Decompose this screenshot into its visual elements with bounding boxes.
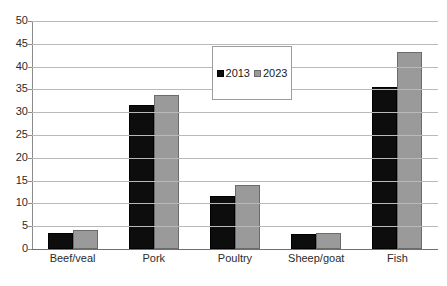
y-tick-mark [28,44,32,45]
legend-entry-2013: 2013 [217,68,250,79]
y-axis-tick-label: 40 [2,61,28,72]
y-tick-mark [28,226,32,227]
gray-square-swatch [254,70,261,77]
legend-row: 20132023 [213,68,291,79]
bar-chart: 50454035302520151050 Beef/vealPorkPoultr… [0,0,447,286]
y-axis-tick-label: 30 [2,106,28,117]
black-square-swatch [217,70,224,77]
gridline [32,203,438,204]
bar-sheep-goat-2013 [291,234,316,249]
gridline [32,158,438,159]
bar-beef-veal-2013 [48,233,73,249]
gridline [32,112,438,113]
y-axis-tick-label: 20 [2,152,28,163]
bar-poultry-2023 [235,185,260,249]
y-tick-mark [28,135,32,136]
y-axis-tick-label: 35 [2,83,28,94]
legend-label: 2023 [263,68,287,79]
y-tick-mark [28,21,32,22]
x-axis-tick-label: Sheep/goat [276,252,357,264]
x-axis-tick-label: Poultry [194,252,275,264]
legend-entry-2023: 2023 [254,68,287,79]
x-axis: Beef/vealPorkPoultrySheep/goatFish [32,252,438,272]
y-axis-tick-label: 10 [2,197,28,208]
bar-sheep-goat-2023 [316,233,341,249]
chart-legend: 20132023 [212,46,292,100]
gridline [32,249,438,250]
bar-fish-2023 [397,52,422,249]
y-tick-mark [28,158,32,159]
cropped-title-sliver [258,0,438,7]
y-axis-tick-label: 25 [2,129,28,140]
x-axis-tick-label: Fish [357,252,438,264]
y-axis-tick-label: 15 [2,175,28,186]
bar-beef-veal-2023 [73,230,98,249]
legend-label: 2013 [226,68,250,79]
bar-pork-2013 [129,105,154,249]
x-axis-tick-label: Pork [113,252,194,264]
gridline [32,21,438,22]
y-tick-mark [28,67,32,68]
y-axis-tick-label: 45 [2,38,28,49]
x-axis-tick-label: Beef/veal [32,252,113,264]
y-tick-mark [28,181,32,182]
gridline [32,181,438,182]
y-tick-mark [28,89,32,90]
y-axis: 50454035302520151050 [0,21,28,249]
y-tick-mark [28,203,32,204]
gridline [32,226,438,227]
y-axis-tick-label: 5 [2,220,28,231]
gridline [32,135,438,136]
y-tick-mark [28,112,32,113]
y-axis-tick-label: 0 [2,243,28,254]
y-axis-tick-label: 50 [2,15,28,26]
gridline [32,44,438,45]
y-tick-mark [28,249,32,250]
